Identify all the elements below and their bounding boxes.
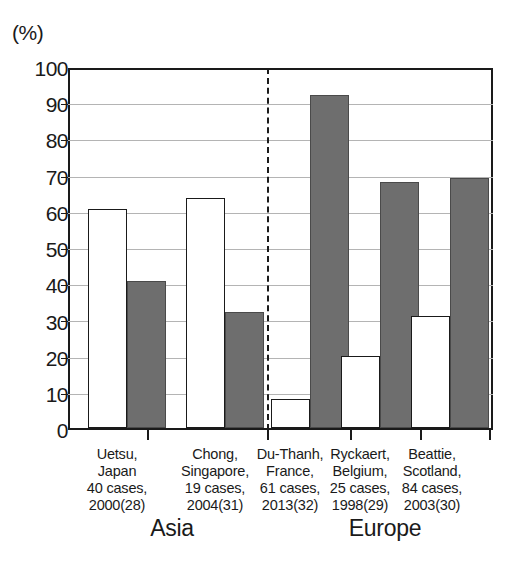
y-tick-label-70: 70 bbox=[12, 167, 68, 188]
plot-border-bottom bbox=[68, 428, 493, 430]
y-tick-mark-60 bbox=[61, 213, 68, 214]
plot-border-top bbox=[68, 68, 493, 70]
y-tick-label-0: 0 bbox=[12, 420, 68, 441]
region-label-europe: Europe bbox=[280, 517, 490, 540]
bar-uetsu-open bbox=[88, 209, 127, 428]
y-tick-label-100: 100 bbox=[12, 58, 68, 79]
gridline-90 bbox=[68, 104, 493, 105]
y-tick-mark-80 bbox=[61, 140, 68, 141]
y-tick-label-30: 30 bbox=[12, 312, 68, 333]
bar-chong-open bbox=[186, 198, 225, 428]
group-label-beattie: Beattie, Scotland, 84 cases, 2003(30) bbox=[372, 446, 492, 514]
group-label-beattie-line-4: 2003(30) bbox=[372, 497, 492, 514]
bar-uetsu-filled bbox=[127, 281, 166, 428]
y-tick-mark-10 bbox=[61, 394, 68, 395]
bar-chart-figure: (%) 100 90 80 70 60 50 40 30 20 10 0 bbox=[0, 0, 530, 566]
y-tick-mark-90 bbox=[61, 104, 68, 105]
gridline-50 bbox=[68, 249, 493, 250]
x-tick-mark-uetsu bbox=[147, 430, 149, 440]
y-tick-label-40: 40 bbox=[12, 275, 68, 296]
y-tick-label-60: 60 bbox=[12, 203, 68, 224]
y-tick-mark-30 bbox=[61, 321, 68, 322]
region-label-asia: Asia bbox=[77, 517, 267, 540]
y-axis-unit-label: (%) bbox=[12, 22, 43, 43]
y-tick-label-80: 80 bbox=[12, 130, 68, 151]
group-label-beattie-line-2: Scotland, bbox=[372, 463, 492, 480]
group-label-beattie-line-1: Beattie, bbox=[372, 446, 492, 463]
plot-area bbox=[68, 68, 493, 430]
x-tick-mark-duthanh bbox=[350, 430, 352, 440]
y-tick-label-50: 50 bbox=[12, 239, 68, 260]
bar-beattie-open bbox=[411, 316, 450, 428]
y-tick-mark-50 bbox=[61, 249, 68, 250]
y-tick-mark-70 bbox=[61, 177, 68, 178]
group-label-beattie-line-3: 84 cases, bbox=[372, 480, 492, 497]
y-tick-label-20: 20 bbox=[12, 348, 68, 369]
x-tick-mark-chong bbox=[267, 430, 269, 440]
region-divider-line bbox=[267, 68, 269, 430]
y-tick-mark-20 bbox=[61, 358, 68, 359]
y-tick-label-90: 90 bbox=[12, 94, 68, 115]
gridline-60 bbox=[68, 213, 493, 214]
bar-duthanh-open bbox=[271, 399, 310, 428]
y-tick-mark-40 bbox=[61, 285, 68, 286]
x-tick-mark-beattie bbox=[489, 430, 491, 440]
bar-ryckaert-open bbox=[341, 356, 380, 428]
gridline-70 bbox=[68, 177, 493, 178]
gridline-80 bbox=[68, 140, 493, 141]
x-tick-mark-ryckaert bbox=[420, 430, 422, 440]
y-tick-label-10: 10 bbox=[12, 384, 68, 405]
bar-beattie-filled bbox=[450, 178, 489, 428]
bar-chong-filled bbox=[225, 312, 264, 428]
